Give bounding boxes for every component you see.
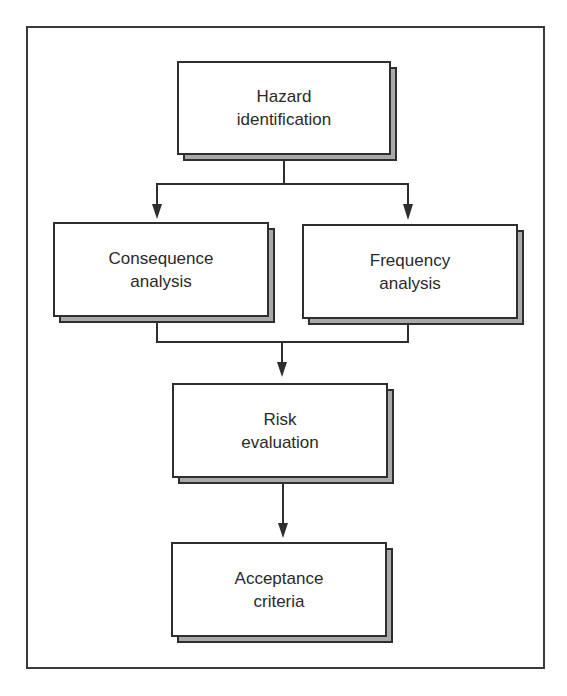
acceptance-criteria-box: Acceptance criteria [171,542,387,637]
node-label-line2: evaluation [241,431,319,454]
arrowhead-icon [403,204,413,220]
node-label-line2: criteria [253,590,304,613]
arrowhead-icon [278,523,288,538]
node-label-line1: Hazard [257,85,312,108]
arrowhead-icon [152,204,162,219]
risk-evaluation-box: Risk evaluation [172,383,388,478]
node-label-line1: Consequence [109,247,214,270]
node-label-line2: identification [237,108,332,131]
arrowhead-icon [277,362,287,377]
node-label-line2: analysis [130,270,191,293]
node-label-line1: Frequency [370,249,450,272]
frequency-analysis-box: Frequency analysis [302,224,518,319]
node-label-line2: analysis [379,272,440,295]
node-label-line1: Risk [263,408,296,431]
node-label-line1: Acceptance [235,567,324,590]
consequence-analysis-box: Consequence analysis [53,222,269,317]
hazard-identification-box: Hazard identification [177,61,391,155]
